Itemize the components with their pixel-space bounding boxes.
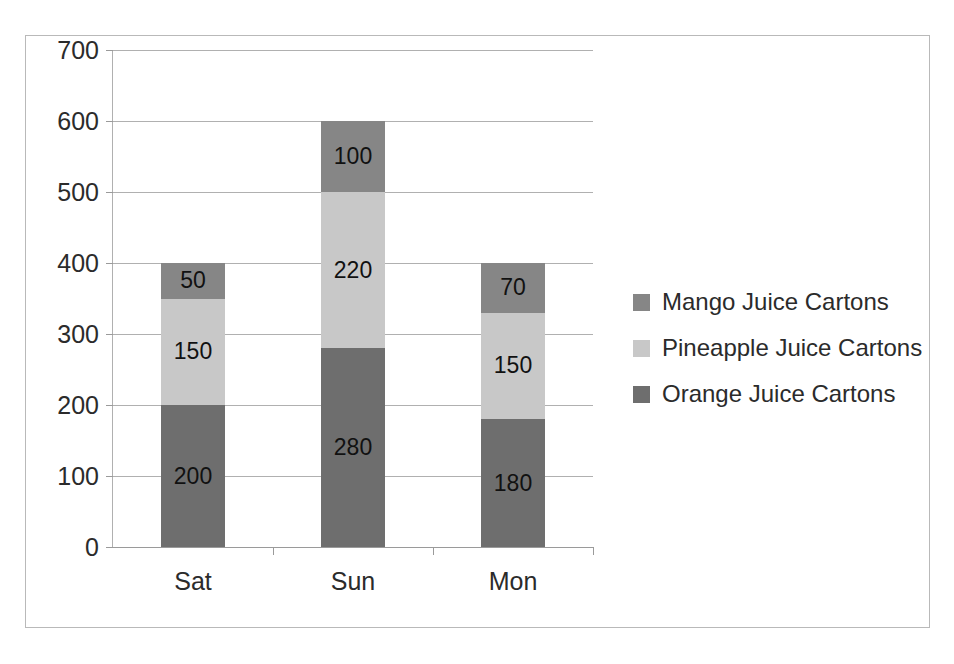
y-tick-label: 600 bbox=[57, 109, 99, 134]
y-tick-label: 0 bbox=[85, 535, 99, 560]
bar-value-label: 200 bbox=[174, 465, 212, 488]
bar-value-label: 100 bbox=[334, 145, 372, 168]
bar-value-label: 150 bbox=[494, 354, 532, 377]
y-tick-mark bbox=[106, 192, 113, 193]
legend-entry[interactable]: Pineapple Juice Cartons bbox=[633, 325, 913, 371]
y-tick-mark bbox=[106, 334, 113, 335]
x-tick-mark bbox=[593, 547, 594, 555]
bar-segment[interactable]: 200 bbox=[161, 405, 225, 547]
x-tick-mark bbox=[273, 547, 274, 555]
bar-segment[interactable]: 70 bbox=[481, 263, 545, 313]
legend-label: Orange Juice Cartons bbox=[662, 382, 895, 406]
plot-area: 0100200300400500600700 20015050280220100… bbox=[113, 50, 593, 547]
y-tick-label: 300 bbox=[57, 322, 99, 347]
gridline bbox=[113, 50, 593, 51]
y-tick-mark bbox=[106, 263, 113, 264]
bar-segment[interactable]: 150 bbox=[481, 313, 545, 420]
bar-segment[interactable]: 50 bbox=[161, 263, 225, 299]
legend-swatch-icon bbox=[633, 386, 650, 403]
bar-value-label: 50 bbox=[180, 269, 206, 292]
bar-value-label: 220 bbox=[334, 259, 372, 282]
bar-segment[interactable]: 220 bbox=[321, 192, 385, 348]
y-tick-mark bbox=[106, 405, 113, 406]
y-tick-label: 700 bbox=[57, 38, 99, 63]
chart-frame: 0100200300400500600700 20015050280220100… bbox=[25, 35, 930, 628]
y-tick-mark bbox=[106, 121, 113, 122]
bar-value-label: 70 bbox=[500, 276, 526, 299]
legend-entry[interactable]: Mango Juice Cartons bbox=[633, 279, 913, 325]
bar-value-label: 150 bbox=[174, 340, 212, 363]
x-category-label: Mon bbox=[489, 569, 538, 594]
y-tick-label: 200 bbox=[57, 393, 99, 418]
legend-label: Pineapple Juice Cartons bbox=[662, 336, 922, 360]
y-tick-label: 400 bbox=[57, 251, 99, 276]
bar-segment[interactable]: 180 bbox=[481, 419, 545, 547]
chart-legend: Mango Juice CartonsPineapple Juice Carto… bbox=[633, 279, 913, 417]
legend-entry[interactable]: Orange Juice Cartons bbox=[633, 371, 913, 417]
legend-label: Mango Juice Cartons bbox=[662, 290, 889, 314]
bar-segment[interactable]: 100 bbox=[321, 121, 385, 192]
y-tick-label: 500 bbox=[57, 180, 99, 205]
bar-segment[interactable]: 150 bbox=[161, 299, 225, 406]
bar-stack[interactable]: 18015070 bbox=[481, 263, 545, 547]
bar-stack[interactable]: 20015050 bbox=[161, 263, 225, 547]
legend-swatch-icon bbox=[633, 294, 650, 311]
y-tick-mark bbox=[106, 50, 113, 51]
bar-segment[interactable]: 280 bbox=[321, 348, 385, 547]
gridline bbox=[113, 547, 593, 548]
bar-value-label: 280 bbox=[334, 436, 372, 459]
y-tick-label: 100 bbox=[57, 464, 99, 489]
y-tick-mark bbox=[106, 547, 113, 548]
x-category-label: Sat bbox=[174, 569, 212, 594]
bar-stack[interactable]: 280220100 bbox=[321, 121, 385, 547]
y-axis-line bbox=[112, 50, 113, 547]
x-category-label: Sun bbox=[331, 569, 375, 594]
legend-swatch-icon bbox=[633, 340, 650, 357]
bar-value-label: 180 bbox=[494, 472, 532, 495]
y-tick-mark bbox=[106, 476, 113, 477]
x-tick-mark bbox=[433, 547, 434, 555]
